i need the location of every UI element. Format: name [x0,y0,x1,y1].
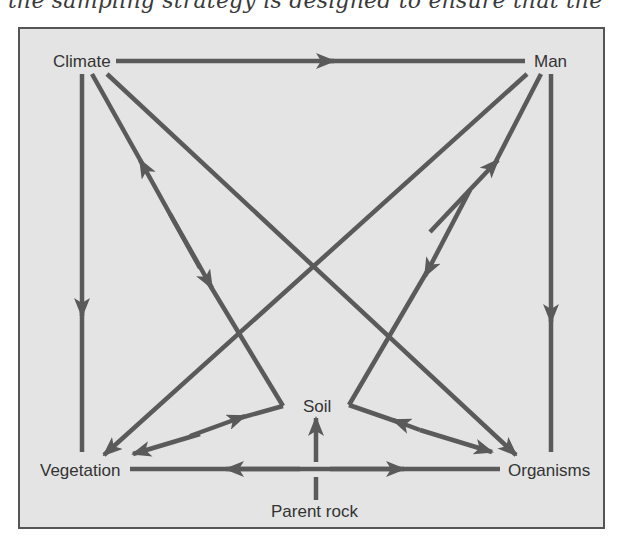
node-soil: Soil [303,398,331,415]
edge-man-soil-bottom [349,270,428,405]
node-parent-rock: Parent rock [271,503,358,520]
node-climate: Climate [53,53,111,70]
edge-man-soil-top [494,74,541,165]
edge-climate-soil-bottom [208,282,283,406]
node-vegetation: Vegetation [40,462,120,479]
edge-soil-organisms-start [349,405,398,422]
edge-climate-soil-top [92,74,143,165]
edge-man-soil-up [430,160,498,232]
edge-soil-organisms [420,430,492,452]
edge-climate-soil-down [170,214,212,288]
edge-soil-vegetation-mid [240,406,283,418]
edge-soil-vegetation-back [133,434,200,454]
node-man: Man [534,53,567,70]
node-organisms: Organisms [508,462,590,479]
